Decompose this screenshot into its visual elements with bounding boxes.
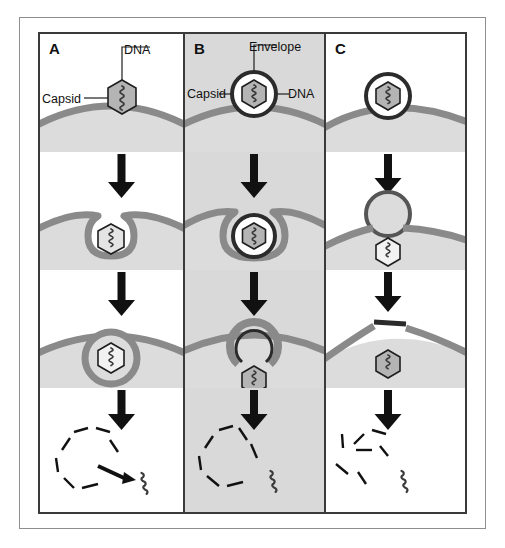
down-arrow bbox=[241, 154, 268, 198]
down-arrow bbox=[108, 390, 135, 430]
panel-c-stage-entry bbox=[326, 270, 465, 388]
panel-b: B Envelope Capsid bbox=[183, 34, 326, 512]
down-arrow bbox=[241, 390, 268, 430]
panel-b-stage-uncoating bbox=[185, 388, 324, 512]
down-arrow bbox=[108, 272, 135, 316]
panel-c-stage-uncoating bbox=[326, 388, 465, 512]
panel-c-stage-fusion bbox=[326, 152, 465, 270]
released-dna bbox=[268, 471, 279, 492]
released-dna bbox=[399, 471, 410, 492]
down-arrow bbox=[108, 154, 135, 198]
down-arrow bbox=[375, 390, 402, 430]
capsid-fragments bbox=[336, 430, 388, 484]
panel-b-stage-attachment: Envelope Capsid DNA bbox=[185, 34, 324, 152]
virus-entry-figure: A DNA Capsid bbox=[0, 0, 505, 548]
release-arrow bbox=[98, 466, 136, 484]
panel-a: A DNA Capsid bbox=[40, 34, 183, 512]
panel-b-stage-fusion bbox=[185, 270, 324, 388]
capsid-fragments bbox=[199, 426, 257, 486]
panel-a-stage-uncoating bbox=[40, 388, 183, 512]
capsid-fragments bbox=[56, 428, 118, 488]
down-arrow bbox=[241, 272, 268, 316]
label-dna: DNA bbox=[124, 44, 150, 57]
panel-a-stage-attachment: DNA Capsid bbox=[40, 34, 183, 152]
capsid-hexagon bbox=[243, 223, 266, 249]
panel-b-stage-invagination bbox=[185, 152, 324, 270]
label-capsid: Capsid bbox=[42, 93, 81, 106]
panel-c-stage-attachment bbox=[326, 34, 465, 152]
panel-group: A DNA Capsid bbox=[38, 32, 467, 514]
down-arrow bbox=[375, 272, 402, 312]
down-arrow bbox=[375, 154, 402, 194]
fused-membrane-patch bbox=[374, 322, 406, 324]
label-envelope: Envelope bbox=[249, 41, 301, 54]
label-capsid: Capsid bbox=[187, 88, 226, 101]
panel-c: C bbox=[326, 34, 465, 512]
released-dna bbox=[139, 473, 150, 494]
label-dna: DNA bbox=[288, 88, 314, 101]
panel-a-stage-vesicle bbox=[40, 270, 183, 388]
panel-a-stage-invagination bbox=[40, 152, 183, 270]
